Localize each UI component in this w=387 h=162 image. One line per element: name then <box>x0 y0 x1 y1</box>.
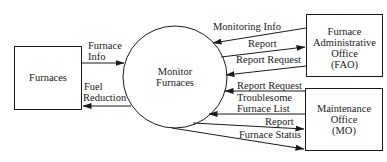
flow-label-report-request-fao: Report Request <box>236 54 301 65</box>
flow-label-furnace-info-1: Furnace <box>88 40 122 51</box>
data-flow-diagram: Furnaces Monitor Furnaces Furnace Admini… <box>0 0 387 162</box>
process-label-line1: Monitor <box>124 66 226 77</box>
mo-label-line1: Maintenance <box>305 103 383 114</box>
flow-label-monitoring-info: Monitoring Info <box>213 21 281 32</box>
flow-label-fuel-reduction-1: Fuel <box>84 81 103 92</box>
flow-report-request-fao <box>226 66 306 75</box>
flow-label-furnace-info-2: Info <box>88 51 106 62</box>
flow-label-furnace-status: Furnace Status <box>239 129 301 140</box>
furnaces-label: Furnaces <box>14 72 82 83</box>
flow-label-report-mo: Report <box>265 116 294 127</box>
fao-label-line3: Office <box>306 48 383 59</box>
fao-label-line2: Administrative <box>306 37 383 48</box>
flow-label-report-fao: Report <box>248 38 277 49</box>
flow-label-troublesome-2: Furnace List <box>237 103 290 114</box>
process-label-line2: Furnaces <box>124 77 226 88</box>
mo-label-line3: (MO) <box>305 125 383 136</box>
flow-label-troublesome-1: Troublesome <box>237 92 292 103</box>
flow-label-report-request-mo: Report Request <box>237 80 302 91</box>
mo-label-line2: Office <box>305 114 383 125</box>
flow-label-fuel-reduction-2: Reduction <box>83 92 126 103</box>
fao-label-line1: Furnace <box>306 26 383 37</box>
fao-label-line4: (FAO) <box>306 59 383 70</box>
